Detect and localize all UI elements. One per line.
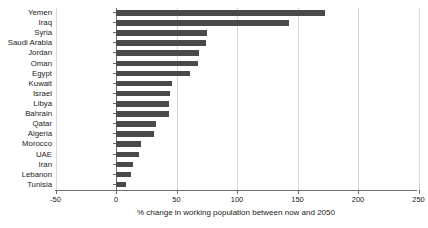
- bar: [116, 111, 169, 117]
- bar-row: Bahrain: [0, 109, 428, 119]
- x-tick: [177, 190, 178, 194]
- category-label: Oman: [31, 59, 52, 69]
- bar-row: Kuwait: [0, 79, 428, 89]
- x-tick-label: 150: [291, 195, 304, 204]
- bar: [116, 10, 325, 16]
- bar-chart: -50050100150200250 YemenIraqSyriaSaudi A…: [0, 0, 428, 228]
- bar-row: Libya: [0, 99, 428, 109]
- x-axis-line: [55, 190, 417, 191]
- bar-row: Saudi Arabia: [0, 38, 428, 48]
- category-label: Syria: [34, 28, 52, 38]
- bar: [116, 152, 139, 158]
- x-tick: [116, 190, 117, 194]
- bar: [116, 30, 207, 36]
- bar: [116, 172, 131, 178]
- bar-row: Lebanon: [0, 170, 428, 180]
- bar-row: Jordan: [0, 48, 428, 58]
- category-label: Lebanon: [22, 170, 52, 180]
- x-tick-label: 0: [114, 195, 118, 204]
- x-tick: [358, 190, 359, 194]
- bar: [116, 91, 170, 97]
- x-tick-label: 50: [172, 195, 180, 204]
- category-label: Jordan: [28, 48, 52, 58]
- bar-row: Israel: [0, 89, 428, 99]
- category-label: Algeria: [28, 129, 52, 139]
- bar-row: Qatar: [0, 119, 428, 129]
- x-tick-label: -50: [50, 195, 61, 204]
- bar: [116, 121, 156, 127]
- bar: [116, 71, 190, 77]
- bar-row: Tunisia: [0, 180, 428, 190]
- bar-row: Oman: [0, 59, 428, 69]
- category-label: Bahrain: [25, 109, 52, 119]
- bar-row: Iraq: [0, 18, 428, 28]
- category-label: Kuwait: [29, 79, 52, 89]
- category-label: Iran: [39, 160, 52, 170]
- bar: [116, 101, 169, 107]
- category-label: Iraq: [39, 18, 52, 28]
- bar: [116, 50, 199, 56]
- x-tick-label: 100: [231, 195, 244, 204]
- bar: [116, 61, 198, 67]
- bar: [116, 141, 141, 147]
- bar: [116, 182, 126, 188]
- bar: [116, 40, 206, 46]
- category-label: Qatar: [33, 119, 53, 129]
- x-tick: [56, 190, 57, 194]
- category-label: Saudi Arabia: [8, 38, 52, 48]
- category-label: Israel: [33, 89, 52, 99]
- bar-row: Morocco: [0, 139, 428, 149]
- category-label: Yemen: [28, 8, 52, 18]
- bar-row: UAE: [0, 150, 428, 160]
- x-axis-title: % change in working population between n…: [55, 208, 417, 217]
- x-tick: [237, 190, 238, 194]
- x-tick-label: 200: [352, 195, 365, 204]
- bar-row: Iran: [0, 160, 428, 170]
- bar-row: Syria: [0, 28, 428, 38]
- bar: [116, 162, 133, 168]
- bar-row: Egypt: [0, 69, 428, 79]
- category-label: Libya: [33, 99, 52, 109]
- x-tick: [298, 190, 299, 194]
- bar: [116, 20, 289, 26]
- x-tick: [419, 190, 420, 194]
- category-label: Morocco: [22, 139, 52, 149]
- category-label: Egypt: [32, 69, 52, 79]
- bar: [116, 81, 172, 87]
- bar-row: Yemen: [0, 8, 428, 18]
- category-label: UAE: [36, 150, 52, 160]
- bar-row: Algeria: [0, 129, 428, 139]
- bar: [116, 131, 154, 137]
- category-label: Tunisia: [27, 180, 52, 190]
- x-tick-label: 250: [412, 195, 425, 204]
